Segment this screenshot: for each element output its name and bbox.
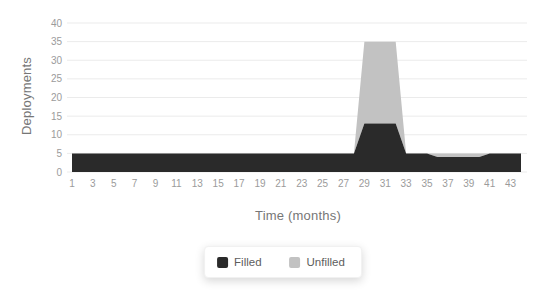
legend-item-filled[interactable]: Filled	[217, 256, 261, 268]
x-tick-label: 19	[254, 178, 266, 189]
x-tick-label: 21	[275, 178, 287, 189]
x-tick-label: 25	[317, 178, 329, 189]
x-tick-label: 5	[111, 178, 117, 189]
x-tick-label: 35	[421, 178, 433, 189]
y-tick-label: 30	[51, 55, 63, 66]
x-tick-label: 27	[338, 178, 350, 189]
gridlines	[67, 23, 527, 172]
x-tick-label: 13	[192, 178, 204, 189]
filled-area	[72, 124, 521, 172]
x-tick-label: 31	[380, 178, 392, 189]
y-tick-label: 20	[51, 92, 63, 103]
x-tick-label: 33	[401, 178, 413, 189]
x-tick-label: 43	[505, 178, 517, 189]
x-tick-label: 23	[296, 178, 308, 189]
x-tick-label: 17	[234, 178, 246, 189]
x-tick-label: 41	[484, 178, 496, 189]
x-tick-label: 7	[132, 178, 138, 189]
x-tick-label: 11	[171, 178, 182, 189]
x-tick-label: 3	[90, 178, 96, 189]
x-axis-title: Time (months)	[255, 208, 341, 223]
x-tick-label: 37	[442, 178, 454, 189]
deployments-area-chart: Deployments 1357911131517192123252729313…	[0, 0, 549, 307]
y-tick-label: 0	[56, 167, 62, 178]
y-tick-label: 35	[51, 36, 63, 47]
y-tick-label: 5	[56, 148, 62, 159]
y-tick-label: 10	[51, 129, 63, 140]
legend: Filled Unfilled	[204, 246, 362, 278]
y-tick-label: 40	[51, 18, 63, 29]
legend-label-unfilled: Unfilled	[307, 256, 345, 268]
filled-series-swatch-icon	[217, 257, 228, 268]
unfilled-series-swatch-icon	[290, 257, 301, 268]
y-tick-label: 15	[51, 111, 63, 122]
legend-item-unfilled[interactable]: Unfilled	[290, 256, 345, 268]
x-tick-labels: 135791113151719212325272931333537394143	[69, 178, 516, 189]
unfilled-area	[72, 42, 521, 157]
x-tick-label: 9	[153, 178, 159, 189]
x-tick-label: 15	[213, 178, 225, 189]
x-tick-label: 39	[463, 178, 475, 189]
x-tick-label: 29	[359, 178, 371, 189]
legend-label-filled: Filled	[234, 256, 261, 268]
y-tick-label: 25	[51, 73, 63, 84]
x-tick-label: 1	[69, 178, 75, 189]
y-tick-labels: 0510152025303540	[51, 18, 63, 178]
plot-area: 1357911131517192123252729313335373941430…	[0, 0, 549, 200]
